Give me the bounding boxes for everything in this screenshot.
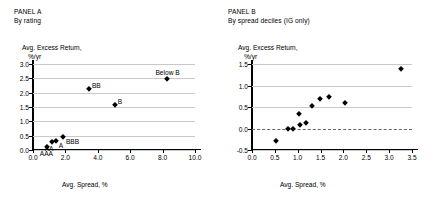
x-axis-tick-label: 3.5 [407,154,416,161]
gridline-horizontal [252,107,412,108]
data-point-label: BBB [66,137,79,144]
panel-a-label: PANEL A [14,8,41,16]
x-axis-tick-label: 2.5 [362,154,371,161]
y-axis-tick [248,107,252,108]
gridline-horizontal [33,150,195,151]
data-point-label: Below B [155,69,179,76]
x-axis-tick-label: 10.0 [189,154,202,161]
y-axis-tick-label: 0.0 [225,125,248,132]
data-point [309,103,315,109]
x-axis-tick [412,150,413,153]
x-axis-tick [366,150,367,153]
x-axis-tick-label: 0.0 [28,154,37,161]
data-point [296,111,302,117]
panel-b-ylabel-line1: Avg. Excess Return, [238,44,298,52]
panel-a-xlabel: Avg. Spread, % [62,181,108,188]
y-axis-tick [29,136,33,137]
data-point-label: B [118,97,122,104]
x-axis-tick-label: 6.0 [126,154,135,161]
gridline-horizontal [33,93,195,94]
data-point [273,138,279,144]
panel-b-label: PANEL B [228,8,256,16]
data-point [398,66,404,72]
panel-b-plot-area: -0.50.00.51.01.50.00.51.01.52.02.53.03.5 [252,64,412,150]
x-axis-tick-label: 0.0 [247,154,256,161]
x-axis-tick [298,150,299,153]
x-axis-tick-label: 3.0 [385,154,394,161]
data-point [317,96,323,102]
gridline-horizontal [252,64,412,65]
y-axis-tick-label: 2.5 [7,75,29,82]
panel-a-subtitle: By rating [14,17,41,25]
panel-b: PANEL B By spread deciles (IG only) Avg.… [220,0,440,202]
y-axis-tick [29,121,33,122]
data-point [164,76,170,82]
gridline-horizontal [252,86,412,87]
y-axis-tick-label: 0.0 [7,147,29,154]
y-axis-tick [248,64,252,65]
x-axis-tick-label: 4.0 [93,154,102,161]
x-axis-tick [33,150,34,153]
panel-b-subtitle: By spread deciles (IG only) [228,17,310,25]
x-axis-tick [98,150,99,153]
y-axis-tick-label: 0.5 [225,104,248,111]
x-axis-tick-label: 0.5 [270,154,279,161]
panel-a-ylabel-line2: %/yr [28,53,41,61]
gridline-horizontal [33,121,195,122]
x-axis-tick [321,150,322,153]
x-axis-tick [65,150,66,153]
y-axis-tick [29,64,33,65]
y-axis-tick-label: 1.0 [7,118,29,125]
y-axis-tick-label: 1.5 [7,104,29,111]
x-axis-tick [252,150,253,153]
panel-a-plot-area: 0.00.51.01.52.02.53.00.02.04.06.08.010.0… [33,64,195,150]
x-axis-tick [343,150,344,153]
y-axis-tick [29,93,33,94]
x-axis-tick-label: 8.0 [158,154,167,161]
y-axis-tick [248,129,252,130]
x-axis-tick-label: 2.0 [339,154,348,161]
panel-b-xlabel: Avg. Spread, % [280,181,326,188]
y-axis-tick [248,86,252,87]
y-axis-tick [29,78,33,79]
data-point [290,126,296,132]
data-point [326,94,332,100]
data-point [342,100,348,106]
data-point-label: BB [92,82,101,89]
zero-reference-line [252,129,412,130]
gridline-horizontal [33,78,195,79]
panel-b-y-axis [251,60,253,150]
y-axis-tick-label: 3.0 [7,61,29,68]
data-point [303,120,309,126]
x-axis-tick [389,150,390,153]
y-axis-tick-label: -0.5 [225,147,248,154]
y-axis-tick-label: 1.0 [225,82,248,89]
x-axis-tick [130,150,131,153]
y-axis-tick-label: 2.0 [7,89,29,96]
gridline-horizontal [33,64,195,65]
x-axis-tick-label: 1.5 [316,154,325,161]
panel-a-ylabel-line1: Avg. Excess Return, [22,44,82,52]
data-point-label: A [59,142,63,149]
gridline-horizontal [252,150,412,151]
x-axis-tick-label: 1.0 [293,154,302,161]
panel-a: PANEL A By rating Avg. Excess Return, %/… [0,0,220,202]
x-axis-tick [163,150,164,153]
x-axis-tick-label: 2.0 [61,154,70,161]
figure-two-panel-scatter: PANEL A By rating Avg. Excess Return, %/… [0,0,440,202]
y-axis-tick-label: 1.5 [225,61,248,68]
x-axis-tick [195,150,196,153]
x-axis-tick [275,150,276,153]
y-axis-tick-label: 0.5 [7,132,29,139]
y-axis-tick [29,107,33,108]
data-point-label: AA [45,145,54,152]
gridline-horizontal [33,136,195,137]
